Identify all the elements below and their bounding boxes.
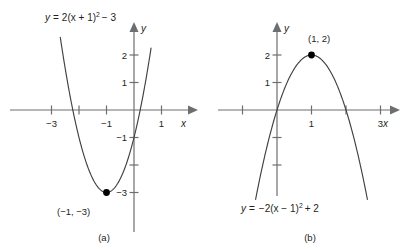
- equation-body-post-b: + 2: [305, 203, 320, 214]
- y-axis-arrow-a: [130, 22, 139, 32]
- y-tick-label-a-1: 1: [122, 77, 127, 88]
- equation-lhs-b: y: [240, 203, 247, 214]
- equation-body-post-a: − 3: [102, 12, 117, 23]
- equation-label-b: y=−2(x − 1)2+ 2: [240, 202, 319, 214]
- vertex-label-a: (−1, −3): [57, 206, 90, 217]
- vertex-label-b: (1, 2): [308, 33, 330, 44]
- y-axis-label-b: y: [283, 23, 290, 34]
- y-axis-arrow-b: [273, 22, 282, 32]
- x-axis-label-a: x: [180, 118, 187, 129]
- equation-equals-a: =: [53, 12, 59, 23]
- x-tick-label-b-2: 1: [309, 118, 314, 129]
- x-axis-arrow-a: [188, 106, 198, 115]
- x-tick-label-a-2: −1: [101, 118, 112, 129]
- y-tick-labels-b: 21: [265, 50, 270, 89]
- equation-label-a: y=2(x + 1)2− 3: [44, 11, 116, 23]
- x-tick-label-a-0: −3: [46, 118, 57, 129]
- equation-body-pre-b: −2(x − 1): [259, 203, 299, 214]
- equation-lhs-a: y: [44, 12, 51, 23]
- x-tick-label-a-4: 1: [159, 118, 164, 129]
- equation-body-pre-a: 2(x + 1): [62, 12, 96, 23]
- x-tick-labels-a: −3−11: [46, 118, 164, 129]
- panel-a: −3−11 21−1−3 x y y=2(x + 1)2− 3 (−1, −3)…: [0, 0, 208, 249]
- figure-root: −3−11 21−1−3 x y y=2(x + 1)2− 3 (−1, −3)…: [0, 0, 417, 249]
- parabola-curve-a: [60, 37, 151, 192]
- equation-equals-b: =: [249, 203, 255, 214]
- equation-exponent-b: 2: [299, 202, 303, 209]
- x-axis-arrow-b: [390, 106, 400, 115]
- y-tick-label-a-4: −3: [116, 187, 127, 198]
- vertex-point-a: [103, 189, 110, 196]
- y-tick-label-a-0: 2: [122, 50, 127, 61]
- subcaption-b: (b): [304, 232, 316, 243]
- y-axis-label-a: y: [140, 23, 147, 34]
- parabola-plot-b: 13 21 x y y=−2(x − 1)2+ 2 (1, 2) (b): [208, 0, 417, 249]
- equation-exponent-a: 2: [96, 11, 100, 18]
- y-tick-label-b-1: 1: [265, 77, 270, 88]
- x-tick-labels-b: 13: [309, 118, 383, 129]
- y-tick-label-a-2: −1: [116, 132, 127, 143]
- panel-b: 13 21 x y y=−2(x − 1)2+ 2 (1, 2) (b): [208, 0, 417, 249]
- subcaption-a: (a): [98, 232, 110, 243]
- x-axis-label-b: x: [382, 118, 389, 129]
- parabola-plot-a: −3−11 21−1−3 x y y=2(x + 1)2− 3 (−1, −3)…: [0, 0, 208, 249]
- y-tick-label-b-0: 2: [265, 50, 270, 61]
- vertex-point-b: [308, 52, 315, 59]
